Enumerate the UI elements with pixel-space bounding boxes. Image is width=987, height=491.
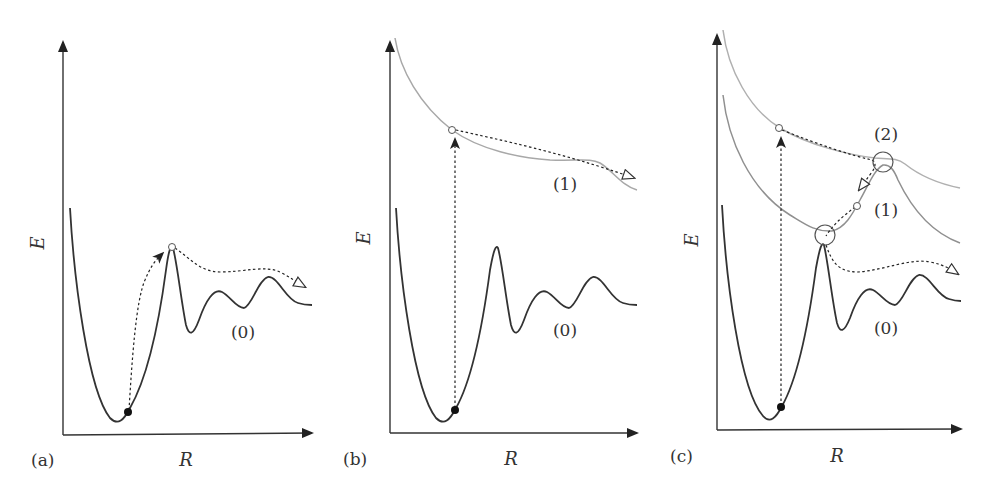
panel-a: E R (a) (0) — [27, 42, 312, 470]
curve-label-0: (0) — [553, 320, 577, 340]
panel-b: E R (b) (1) (0) — [343, 38, 637, 469]
initial-state-dot — [451, 406, 459, 414]
ground-state-curve-0 — [70, 208, 312, 422]
excited-state-curve-2 — [723, 30, 960, 188]
conical-intersection-upper — [873, 152, 893, 172]
x-axis-label: R — [829, 445, 844, 466]
y-axis-label: E — [681, 233, 702, 247]
intermediate-marker — [854, 203, 861, 210]
curve-label-1: (1) — [553, 174, 577, 194]
ground-state-curve-0 — [722, 205, 961, 420]
franck-condon-marker — [776, 125, 783, 132]
y-axis-label: E — [27, 236, 48, 250]
dissociation-path — [826, 245, 958, 274]
nonadiabatic-path-upper — [782, 130, 875, 190]
initial-state-dot — [124, 408, 132, 416]
dissociation-path — [175, 248, 305, 287]
initial-state-dot — [777, 403, 785, 411]
panel-label: (b) — [343, 449, 367, 469]
curve-label-2: (2) — [874, 124, 898, 144]
dissociation-path — [456, 130, 634, 178]
conical-intersection-lower — [815, 225, 835, 245]
potential-energy-figure: E R (a) (0) E R (b) (1) (0) E — [0, 0, 987, 491]
excited-state-curve-1 — [723, 95, 960, 243]
x-axis — [717, 429, 961, 430]
transition-state-marker — [169, 244, 176, 251]
curve-label-0: (0) — [231, 322, 255, 342]
curve-label-0: (0) — [874, 318, 898, 338]
panel-label: (a) — [31, 450, 54, 470]
curve-label-1: (1) — [874, 200, 898, 220]
x-axis-label: R — [503, 448, 518, 469]
excited-state-curve-1 — [395, 38, 637, 190]
panel-label: (c) — [670, 446, 693, 466]
x-axis-label: R — [178, 449, 193, 470]
x-axis — [63, 433, 312, 435]
panel-c: E R (c) (2) (1) (0) — [670, 30, 961, 466]
ground-state-curve-0 — [396, 208, 637, 422]
franck-condon-marker — [449, 127, 456, 134]
y-axis-label: E — [353, 231, 374, 245]
